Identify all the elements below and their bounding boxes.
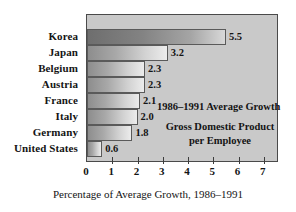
annotation-gdp-line-1: Gross Domestic Product bbox=[166, 121, 275, 132]
bar-austria bbox=[87, 77, 145, 93]
x-tick-label-3: 3 bbox=[152, 165, 172, 177]
category-label-germany: Germany bbox=[33, 124, 78, 140]
bar-value-france: 2.1 bbox=[143, 93, 156, 109]
x-axis-title: Percentage of Average Growth, 1986–1991 bbox=[0, 188, 296, 200]
category-label-japan: Japan bbox=[49, 44, 78, 60]
x-tick-mark-6 bbox=[239, 157, 240, 164]
x-tick-label-1: 1 bbox=[101, 165, 121, 177]
bar-value-united-states: 0.6 bbox=[105, 141, 118, 157]
annotation-gdp-line-2: per Employee bbox=[189, 135, 251, 146]
category-label-italy: Italy bbox=[56, 108, 79, 124]
bar-value-belgium: 2.3 bbox=[148, 61, 161, 77]
bar-value-austria: 2.3 bbox=[148, 77, 161, 93]
category-label-austria: Austria bbox=[42, 76, 78, 92]
bar-italy bbox=[87, 109, 138, 125]
table-row: 3.2 bbox=[87, 45, 279, 61]
bar-belgium bbox=[87, 61, 145, 77]
bar-united-states bbox=[87, 141, 102, 157]
x-tick-label-2: 2 bbox=[127, 165, 147, 177]
category-axis-labels: Korea Japan Belgium Austria France Italy… bbox=[0, 28, 82, 156]
bar-value-italy: 2.0 bbox=[141, 109, 154, 125]
x-tick-label-6: 6 bbox=[228, 165, 248, 177]
bar-germany bbox=[87, 125, 132, 141]
gdp-growth-bar-chart: Korea Japan Belgium Austria France Italy… bbox=[0, 0, 296, 212]
category-label-korea: Korea bbox=[48, 28, 78, 44]
table-row: 2.3 bbox=[87, 77, 279, 93]
category-label-united-states: United States bbox=[14, 140, 78, 156]
x-tick-mark-1 bbox=[112, 157, 113, 164]
x-tick-label-0: 0 bbox=[76, 165, 96, 177]
annotation-average-growth: 1986–1991 Average Growth bbox=[157, 101, 280, 112]
category-label-france: France bbox=[44, 92, 78, 108]
table-row: 5.5 bbox=[87, 29, 279, 45]
table-row: 2.3 bbox=[87, 61, 279, 77]
bar-korea bbox=[87, 29, 226, 45]
bar-value-germany: 1.8 bbox=[135, 125, 148, 141]
annotation-gdp-per-employee: Gross Domestic Product per Employee bbox=[157, 120, 283, 148]
x-tick-mark-3 bbox=[163, 157, 164, 164]
x-tick-mark-2 bbox=[138, 157, 139, 164]
category-label-belgium: Belgium bbox=[38, 60, 78, 76]
bar-france bbox=[87, 93, 140, 109]
bar-japan bbox=[87, 45, 168, 61]
x-axis-tick-labels: 0 1 2 3 4 5 6 7 bbox=[86, 165, 278, 181]
x-tick-mark-4 bbox=[188, 157, 189, 164]
x-tick-mark-5 bbox=[213, 157, 214, 164]
bar-value-japan: 3.2 bbox=[171, 45, 184, 61]
bar-value-korea: 5.5 bbox=[229, 29, 242, 45]
x-tick-mark-7 bbox=[264, 157, 265, 164]
x-tick-label-5: 5 bbox=[202, 165, 222, 177]
x-tick-label-7: 7 bbox=[253, 165, 273, 177]
x-tick-label-4: 4 bbox=[177, 165, 197, 177]
